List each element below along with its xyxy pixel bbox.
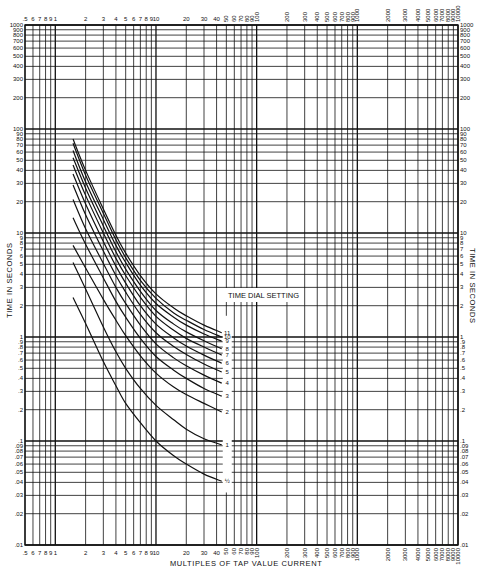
y-tick-label-left: 7 — [20, 246, 24, 252]
y-tick-label-right: 60 — [460, 149, 467, 155]
y-tick-label-right: 400 — [460, 63, 471, 69]
x-tick-label-bottom: 6000 — [433, 547, 439, 561]
x-tick-label-bottom: 30 — [201, 550, 208, 556]
y-tick-label-left: .02 — [15, 511, 24, 517]
x-tick-label-top: 2000 — [385, 8, 391, 22]
y-tick-label-right: .01 — [460, 542, 469, 548]
x-tick-label-bottom: 10 — [153, 550, 160, 556]
x-tick-label-top: 40 — [213, 16, 220, 22]
x-tick-label-top: 200 — [284, 11, 290, 22]
x-tick-label-bottom: 2000 — [385, 547, 391, 561]
x-tick-label-top: 3 — [102, 16, 106, 22]
y-tick-label-right: .2 — [460, 407, 466, 413]
y-tick-label-right: .3 — [460, 388, 466, 394]
chart-grid — [25, 25, 458, 545]
y-tick-label-right: 200 — [460, 95, 471, 101]
curve-time-dial-1-2 — [73, 297, 222, 481]
x-tick-label-bottom: 100 — [254, 547, 260, 558]
y-tick-label-right: 600 — [460, 45, 471, 51]
y-tick-label-right: .02 — [460, 511, 469, 517]
curve-time-dial-4 — [73, 199, 222, 383]
y-tick-label-left: .06 — [15, 461, 24, 467]
y-tick-label-left: .03 — [15, 492, 24, 498]
y-tick-label-left: 600 — [13, 45, 24, 51]
y-tick-label-right: 700 — [460, 38, 471, 44]
x-tick-label-top: 7 — [38, 16, 42, 22]
x-tick-label-top: 30 — [201, 16, 208, 22]
y-tick-label-left: 30 — [16, 180, 23, 186]
y-tick-label-left: .6 — [18, 357, 24, 363]
x-tick-label-bottom: 500 — [324, 547, 330, 558]
y-tick-label-right: .6 — [460, 357, 466, 363]
x-tick-label-bottom: 3000 — [402, 547, 408, 561]
y-tick-label-right: .4 — [460, 375, 466, 381]
y-axis-title-left: TIME IN SECONDS — [5, 242, 14, 318]
y-tick-label-right: 2 — [460, 303, 464, 309]
x-tick-label-top: 400 — [314, 11, 320, 22]
y-tick-label-right: 20 — [460, 199, 467, 205]
x-tick-label-bottom: 6 — [132, 550, 136, 556]
y-tick-label-right: 6 — [460, 253, 464, 259]
y-tick-label-right: 5 — [460, 261, 464, 267]
curve-time-dial-2 — [73, 245, 222, 412]
chart-curves: 1110987654321½ — [73, 139, 232, 492]
y-tick-label-left: 70 — [16, 142, 23, 148]
x-tick-label-bottom: .5 — [22, 550, 28, 556]
y-tick-label-right: 7 — [460, 246, 464, 252]
x-tick-label-top: 4 — [114, 16, 118, 22]
axis-ticks: .5.5667788991122334455667788991010202030… — [10, 5, 474, 565]
x-tick-label-bottom: 4000 — [415, 547, 421, 561]
curve-label-1-2: ½ — [225, 478, 230, 484]
x-tick-label-top: 600 — [332, 11, 338, 22]
y-tick-label-right: .07 — [460, 454, 469, 460]
x-tick-label-top: 500 — [324, 11, 330, 22]
x-tick-label-bottom: 8 — [145, 550, 149, 556]
x-tick-label-bottom: 60 — [231, 547, 237, 554]
y-tick-label-right: 4 — [460, 271, 464, 277]
y-tick-label-left: .5 — [18, 365, 24, 371]
x-tick-label-top: 6 — [31, 16, 35, 22]
y-tick-label-left: 4 — [20, 271, 24, 277]
y-tick-label-right: 3 — [460, 284, 464, 290]
x-tick-label-top: 60 — [231, 15, 237, 22]
x-tick-label-bottom: 2 — [84, 550, 88, 556]
y-tick-label-right: 30 — [460, 180, 467, 186]
x-tick-label-top: 3000 — [402, 8, 408, 22]
x-tick-label-bottom: 20 — [183, 550, 190, 556]
y-tick-label-left: .01 — [15, 542, 24, 548]
y-tick-label-left: 3 — [20, 284, 24, 290]
x-tick-label-top: 8 — [44, 16, 48, 22]
x-tick-label-top: 1 — [54, 16, 58, 22]
y-tick-label-left: .3 — [18, 388, 24, 394]
y-tick-label-left: .04 — [15, 479, 24, 485]
x-tick-label-top: 6 — [132, 16, 136, 22]
x-axis-title: MULTIPLES OF TAP VALUE CURRENT — [170, 559, 322, 568]
y-tick-label-left: .7 — [18, 350, 24, 356]
y-tick-label-right: 500 — [460, 53, 471, 59]
y-tick-label-left: .2 — [18, 407, 24, 413]
x-tick-label-top: 300 — [302, 11, 308, 22]
y-tick-label-right: .03 — [460, 492, 469, 498]
y-tick-label-left: 60 — [16, 149, 23, 155]
y-tick-label-right: 50 — [460, 157, 467, 163]
curve-time-dial-8 — [73, 158, 222, 349]
x-tick-label-bottom: 7 — [38, 550, 42, 556]
x-tick-label-top: 50 — [223, 15, 229, 22]
curve-time-dial-9 — [73, 151, 222, 342]
y-tick-label-left: 200 — [13, 95, 24, 101]
x-tick-label-bottom: 5000 — [425, 547, 431, 561]
x-tick-label-bottom: 600 — [332, 547, 338, 558]
x-tick-label-bottom: 9 — [49, 550, 53, 556]
y-tick-label-right: .06 — [460, 461, 469, 467]
y-tick-label-left: 5 — [20, 261, 24, 267]
x-tick-label-bottom: 6 — [31, 550, 35, 556]
x-tick-label-top: 10000 — [455, 5, 461, 22]
y-tick-label-left: .07 — [15, 454, 24, 460]
x-tick-label-top: 5 — [124, 16, 128, 22]
y-tick-label-left: 2 — [20, 303, 24, 309]
x-tick-label-top: 9 — [49, 16, 53, 22]
legend-title: TIME DIAL SETTING — [228, 291, 299, 300]
y-tick-label-left: 700 — [13, 38, 24, 44]
x-tick-label-bottom: 8 — [44, 550, 48, 556]
time-current-chart: 1110987654321½ .5.5667788991122334455667… — [0, 0, 482, 570]
